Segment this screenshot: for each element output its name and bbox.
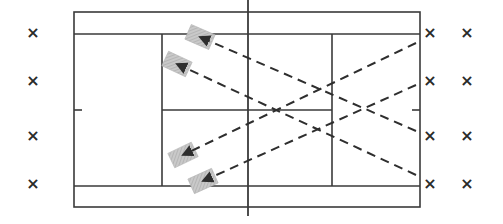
player-marker-x-icon: ×	[460, 174, 473, 193]
tennis-court-diagram: ××××××××××××	[0, 0, 503, 224]
player-marker-x-icon: ×	[423, 71, 436, 90]
hatched-box	[188, 168, 218, 193]
ball-landing-zone	[168, 142, 198, 168]
player-marker-x-icon: ×	[423, 174, 436, 193]
shot-path-3	[204, 39, 416, 131]
hatched-box	[168, 142, 198, 168]
player-marker-x-icon: ×	[26, 71, 39, 90]
player-marker-x-icon: ×	[26, 23, 39, 42]
player-marker-x-icon: ×	[423, 23, 436, 42]
player-marker-x-icon: ×	[423, 126, 436, 145]
player-marker-x-icon: ×	[460, 126, 473, 145]
ball-landing-zone	[162, 51, 192, 76]
hatched-box	[162, 51, 192, 76]
player-markers: ××××××××××××	[26, 23, 473, 193]
court-canvas: ××××××××××××	[0, 0, 503, 224]
ball-landing-zone	[188, 168, 218, 193]
player-marker-x-icon: ×	[26, 126, 39, 145]
shot-paths	[162, 24, 416, 193]
player-marker-x-icon: ×	[460, 23, 473, 42]
ball-landing-zone	[185, 24, 215, 49]
player-marker-x-icon: ×	[26, 174, 39, 193]
court-lines	[74, 0, 420, 216]
shot-path-2	[207, 85, 416, 179]
hatched-box	[185, 24, 215, 49]
shot-path-4	[181, 66, 416, 175]
player-marker-x-icon: ×	[460, 71, 473, 90]
